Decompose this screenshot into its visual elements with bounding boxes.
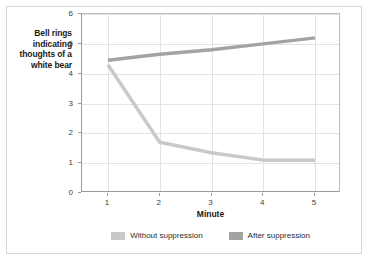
y-tick-label: 3	[55, 98, 73, 107]
x-tick-label: 4	[250, 198, 274, 207]
x-tick-mark	[107, 193, 108, 196]
x-tick-mark	[314, 193, 315, 196]
y-tick-label: 4	[55, 68, 73, 77]
legend-swatch-icon	[229, 232, 243, 240]
chart-legend: Without suppressionAfter suppression	[81, 231, 340, 240]
y-tick-mark	[78, 103, 81, 104]
x-tick-label: 5	[302, 198, 326, 207]
y-tick-mark	[78, 13, 81, 14]
x-tick-label: 1	[95, 198, 119, 207]
y-tick-mark	[78, 73, 81, 74]
x-tick-mark	[211, 193, 212, 196]
y-tick-label: 6	[55, 9, 73, 18]
y-tick-mark	[78, 132, 81, 133]
y-tick-mark	[78, 192, 81, 193]
y-tick-label: 0	[55, 188, 73, 197]
chart-figure: Bell rings indicating thoughts of a whit…	[0, 0, 369, 261]
legend-entry[interactable]: Without suppression	[111, 231, 202, 240]
x-tick-label: 3	[199, 198, 223, 207]
x-axis-title: Minute	[81, 209, 340, 219]
x-tick-mark	[262, 193, 263, 196]
x-tick-mark	[159, 193, 160, 196]
y-tick-label: 5	[55, 38, 73, 47]
y-tick-mark	[78, 43, 81, 44]
series-line	[108, 38, 315, 60]
y-tick-label: 2	[55, 128, 73, 137]
legend-swatch-icon	[111, 232, 125, 240]
y-axis-title: Bell rings indicating thoughts of a whit…	[8, 28, 72, 70]
y-tick-mark	[78, 162, 81, 163]
x-tick-label: 2	[147, 198, 171, 207]
legend-label: Without suppression	[130, 231, 202, 240]
legend-entry[interactable]: After suppression	[229, 231, 310, 240]
series-line	[108, 65, 315, 160]
plot-area	[81, 13, 340, 192]
y-tick-label: 1	[55, 158, 73, 167]
legend-label: After suppression	[248, 231, 310, 240]
series-layer	[82, 14, 341, 193]
